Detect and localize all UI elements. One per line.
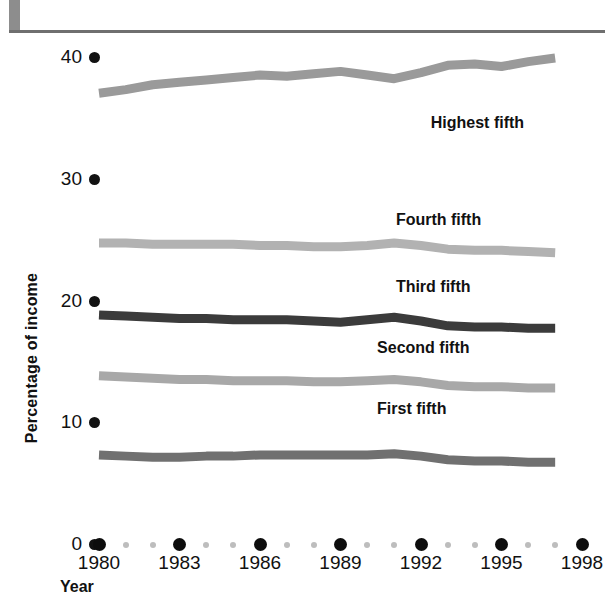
series-line-third-fifth <box>99 315 555 328</box>
series-line-fourth-fifth <box>99 243 555 253</box>
x-tick-label-1980: 1980 <box>64 552 134 574</box>
x-tick-label-1998: 1998 <box>547 552 612 574</box>
y-tick-label-30: 30 <box>42 168 82 190</box>
x-tick-dot-minor-1987 <box>284 542 290 548</box>
series-label-first-fifth: First fifth <box>377 400 446 418</box>
x-tick-dot-minor-1993 <box>445 542 451 548</box>
series-label-fourth-fifth: Fourth fifth <box>396 211 481 229</box>
series-label-third-fifth: Third fifth <box>396 278 471 296</box>
x-tick-dot-minor-1988 <box>311 542 317 548</box>
series-line-second-fifth <box>99 376 555 388</box>
x-tick-dot-major-1995 <box>495 538 508 551</box>
y-tick-dot-20 <box>89 296 100 307</box>
x-tick-dot-minor-1982 <box>150 542 156 548</box>
series-label-highest-fifth: Highest fifth <box>431 114 524 132</box>
y-tick-label-40: 40 <box>42 46 82 68</box>
y-tick-label-10: 10 <box>42 411 82 433</box>
series-label-second-fifth: Second fifth <box>377 339 469 357</box>
x-tick-dot-major-1986 <box>254 538 267 551</box>
series-line-first-fifth <box>99 454 555 463</box>
x-tick-dot-major-1983 <box>173 538 186 551</box>
x-tick-dot-major-1989 <box>334 538 347 551</box>
y-tick-label-20: 20 <box>42 290 82 312</box>
x-tick-label-1983: 1983 <box>145 552 215 574</box>
x-tick-dot-minor-1981 <box>123 542 129 548</box>
x-tick-dot-major-1980 <box>93 538 106 551</box>
y-tick-dot-30 <box>89 174 100 185</box>
x-tick-label-1989: 1989 <box>306 552 376 574</box>
x-tick-label-1995: 1995 <box>467 552 537 574</box>
series-line-highest-fifth <box>99 58 555 93</box>
y-tick-dot-40 <box>89 52 100 63</box>
x-tick-label-1992: 1992 <box>386 552 456 574</box>
chart-page: Income: 1980–1997 Percentage of income Y… <box>0 0 612 604</box>
x-tick-dot-major-1992 <box>415 538 428 551</box>
x-tick-dot-major-1998 <box>576 538 589 551</box>
x-tick-label-1986: 1986 <box>225 552 295 574</box>
x-tick-dot-minor-1994 <box>472 542 478 548</box>
